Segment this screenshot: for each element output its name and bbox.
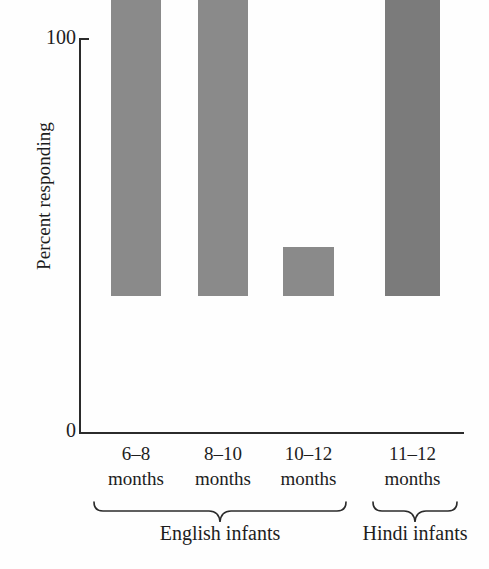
plot-area [0,0,489,433]
bar-chart-figure: Percent responding 100 0 6–8 months 8–10… [0,0,489,569]
group-label-hindi: Hindi infants [359,522,471,545]
group-label-english: English infants [92,522,348,545]
x-label-10-12-months: 10–12 months [254,441,364,491]
bar-11-12-months [385,0,440,296]
bar-8-10-months [198,0,248,296]
bar-6-8-months [111,0,161,296]
x-label-range: 10–12 [254,441,364,466]
bar-10-12-months [283,247,334,296]
x-label-unit: months [358,466,468,491]
x-label-range: 11–12 [358,441,468,466]
x-label-11-12-months: 11–12 months [358,441,468,491]
x-label-unit: months [254,466,364,491]
